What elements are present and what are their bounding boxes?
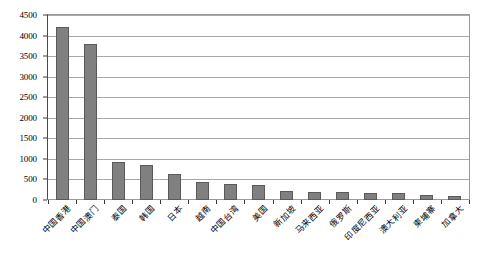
bar [280,191,293,200]
x-tick-label: 澳大利亚 [377,203,410,236]
y-tick-mark [43,117,47,118]
y-tick-label: 4000 [19,31,37,40]
bar [112,162,125,200]
y-axis: 050010001500200025003000350040004500 [0,0,44,200]
y-tick-label: 2000 [19,113,37,122]
y-tick-mark [43,76,47,77]
y-tick-mark [43,179,47,180]
x-tick-label: 越南 [193,203,213,223]
bar-chart: 050010001500200025003000350040004500 中国香… [0,0,477,273]
x-tick-label: 中国香港 [40,203,73,236]
x-tick-label: 美国 [250,203,270,223]
bar [336,192,349,200]
bar [364,193,377,200]
x-tick-label: 加拿大 [440,203,466,229]
bar [252,185,265,200]
x-tick-label: 新加坡 [271,203,297,229]
bar [392,193,405,200]
y-tick-label: 0 [33,196,37,205]
x-tick-label: 韩国 [137,203,157,223]
x-tick-label: 日本 [165,203,185,223]
y-tick-mark [43,35,47,36]
x-tick-label: 中国台湾 [209,203,242,236]
y-tick-label: 3500 [19,52,37,61]
x-tick-mark [469,200,470,204]
y-tick-label: 2500 [19,93,37,102]
y-tick-label: 4500 [19,11,37,20]
bar [168,174,181,200]
bar [140,165,153,200]
y-tick-label: 500 [24,175,37,184]
x-axis-labels: 中国香港中国澳门泰国韩国日本越南中国台湾美国新加坡马来西亚俄罗斯印度尼西亚澳大利… [48,203,469,273]
bar [84,44,97,200]
bar [224,184,237,200]
x-tick-label: 马来西亚 [293,203,326,236]
bars-container [48,15,469,200]
y-tick-mark [43,97,47,98]
y-tick-mark [43,158,47,159]
bar [56,27,69,200]
bar [196,182,209,200]
x-tick-label: 俄罗斯 [327,203,353,229]
x-tick-label: 柬埔寨 [412,203,438,229]
bar [308,192,321,200]
y-tick-mark [43,56,47,57]
y-tick-label: 3000 [19,72,37,81]
y-tick-mark [43,15,47,16]
x-tick-label: 泰国 [109,203,129,223]
x-tick-label: 中国澳门 [68,203,101,236]
y-tick-label: 1000 [19,154,37,163]
y-tick-label: 1500 [19,134,37,143]
y-tick-mark [43,200,47,201]
y-tick-mark [43,138,47,139]
